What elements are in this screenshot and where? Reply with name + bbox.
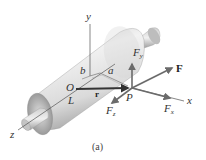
fx-label: Fx xyxy=(163,102,175,116)
dimension-a-label: a xyxy=(108,64,114,76)
origin-label: O xyxy=(66,81,74,93)
fz-label: Fz xyxy=(105,104,116,118)
diagram-canvas: y x z O P L b a r F Fy Fx Fz (a) xyxy=(0,0,206,160)
x-axis-label: x xyxy=(186,94,192,106)
back-shaft xyxy=(142,26,163,48)
length-label: L xyxy=(67,94,74,106)
figure-caption: (a) xyxy=(92,141,103,153)
z-axis-label: z xyxy=(9,128,15,140)
dimension-b-label: b xyxy=(80,64,86,76)
fx-vector xyxy=(132,88,170,98)
point-label: P xyxy=(125,91,133,103)
r-vector-label: r xyxy=(95,89,99,99)
f-vector-label: F xyxy=(176,62,183,74)
r-vector xyxy=(76,88,128,89)
y-axis-label: y xyxy=(85,10,91,22)
